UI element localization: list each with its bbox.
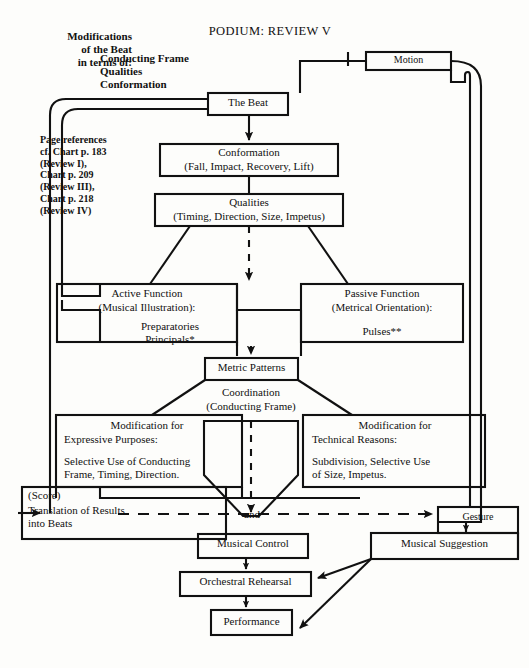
node-mod-technical-body: Subdivision, Selective Use of Size, Impe… [312,455,496,481]
node-gesture: Gesture [438,511,518,523]
node-passive-function-sub: (Metrical Orientation): [301,301,463,314]
node-score-body: Translation of Results into Beats [28,504,208,530]
node-passive-function-items: Pulses** [301,325,463,338]
node-passive-function-title: Passive Function [301,287,463,300]
modifier-list: Conducting Frame Qualities Conformation [100,52,260,91]
node-mod-technical-sub: Technical Reasons: [312,433,492,446]
node-coordination-title: Coordination [190,386,312,399]
diagram-canvas: PODIUM: REVIEW V Modifications of the Be… [0,0,529,668]
node-conformation-sub: (Fall, Impact, Recovery, Lift) [160,160,338,173]
node-active-function-title: Active Function [57,287,237,300]
node-active-function-sub: (Musical Illustration): [57,301,237,314]
node-mod-technical-title: Modification for [310,419,480,432]
node-score-label: (Score) [28,489,148,502]
node-mod-expressive-body: Selective Use of Conducting Frame, Timin… [64,455,248,481]
node-active-function-items: Preparatories Principals* [105,320,235,346]
node-the-beat: The Beat [208,96,288,109]
node-qualities-title: Qualities [155,196,343,209]
node-conformation-title: Conformation [160,146,338,159]
node-motion: Motion [366,54,451,66]
node-performance: Performance [211,615,292,628]
node-mod-expressive-sub: Expressive Purposes: [64,433,244,446]
node-musical-suggestion: Musical Suggestion [371,537,518,550]
node-orchestral-rehearsal: Orchestral Rehearsal [180,575,311,588]
node-qualities-sub: (Timing, Direction, Size, Impetus) [155,210,343,223]
node-musical-control: Musical Control [198,537,308,550]
node-mod-expressive-title: Modification for [62,419,232,432]
node-and-label: and [232,508,272,521]
node-coordination-sub: (Conducting Frame) [184,400,318,413]
node-metric-patterns: Metric Patterns [205,361,298,374]
page-title: PODIUM: REVIEW V [160,24,380,39]
